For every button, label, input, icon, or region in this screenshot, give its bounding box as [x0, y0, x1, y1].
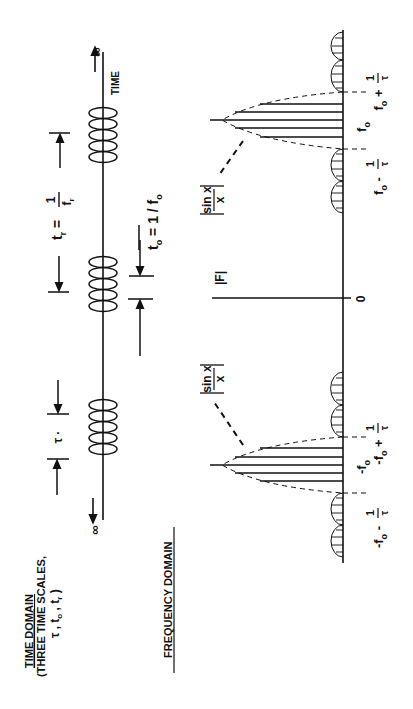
svg-text:sin x: sin x — [200, 365, 214, 393]
time-axis-label: TIME — [110, 71, 121, 95]
label-fo-plus-inv-tau: fo + 1 τ — [364, 73, 390, 111]
svg-text:x: x — [213, 196, 227, 203]
svg-text:-fo -: -fo - — [371, 526, 389, 548]
to-dimension — [128, 225, 154, 356]
tr-dimension — [48, 133, 70, 292]
label-neg-fo: -fo — [354, 459, 372, 474]
svg-text:1: 1 — [364, 425, 376, 431]
label-fo: fo — [354, 122, 372, 132]
svg-text:-fo +: -fo + — [371, 439, 389, 465]
magnitude-label: |F| — [213, 271, 227, 285]
positive-main-lobe — [210, 104, 343, 137]
diagram-canvas: TIME ∞ ∞ tr = 1 fr to = 1 / fo τ · TIME … — [0, 0, 413, 709]
frequency-domain-title: FREQUENCY DOMAIN — [162, 541, 174, 658]
label-neg-fo-plus-inv-tau: -fo + 1 τ — [364, 423, 390, 465]
positive-envelope-pointer — [219, 141, 243, 175]
svg-text:1: 1 — [364, 161, 376, 167]
tau-label: τ · — [51, 431, 65, 444]
svg-text:τ: τ — [379, 510, 390, 515]
time-domain-title: TIME DOMAIN — [23, 594, 35, 668]
svg-text:fr: fr — [60, 198, 76, 205]
time-domain-title-block: TIME DOMAIN (THREE TIME SCALES, τ , to ,… — [23, 556, 64, 677]
time-scales-list: τ , to , tr ) — [48, 589, 64, 638]
svg-text:fo +: fo + — [371, 89, 389, 110]
svg-text:to = 1 / fo: to = 1 / fo — [145, 194, 164, 250]
svg-text:1: 1 — [364, 75, 376, 81]
svg-text:tr =: tr = — [49, 220, 68, 240]
svg-text:1: 1 — [364, 510, 376, 516]
svg-text:sin x: sin x — [200, 186, 214, 214]
svg-text:x: x — [213, 375, 227, 382]
label-fo-minus-inv-tau: fo - 1 τ — [364, 159, 390, 195]
envelope-label-negative: sin x x — [200, 365, 227, 393]
negative-main-lobe — [210, 448, 343, 481]
svg-text:τ: τ — [379, 425, 390, 430]
svg-text:τ: τ — [379, 75, 390, 80]
time-domain-subtitle: (THREE TIME SCALES, — [35, 556, 47, 677]
zero-label: 0 — [354, 295, 368, 302]
svg-text:1: 1 — [44, 196, 58, 203]
svg-text:τ: τ — [379, 161, 390, 166]
tr-formula: tr = 1 fr — [44, 192, 76, 240]
negative-envelope-pointer — [214, 402, 243, 445]
envelope-label-positive: sin x x — [200, 186, 227, 214]
to-formula: to = 1 / fo — [145, 194, 164, 250]
positive-sidelobes — [331, 32, 343, 213]
infinity-bottom-label: ∞ — [87, 525, 102, 534]
svg-text:fo -: fo - — [371, 177, 389, 195]
label-neg-fo-minus-inv-tau: -fo - 1 τ — [364, 508, 390, 548]
frequency-domain-title-block: FREQUENCY DOMAIN — [162, 527, 174, 673]
infinity-top-label: ∞ — [89, 47, 104, 56]
